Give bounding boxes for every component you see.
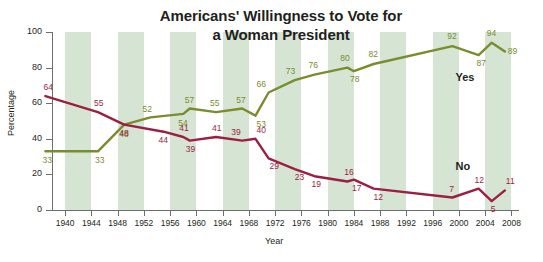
- data-label: 16: [344, 167, 353, 177]
- data-label: 40: [256, 125, 265, 135]
- data-label: 57: [185, 95, 194, 105]
- data-label: 66: [257, 79, 266, 89]
- data-label: 92: [447, 31, 456, 41]
- data-label: 33: [42, 155, 51, 165]
- chart-root: Americans' Willingness to Vote for a Wom…: [0, 0, 543, 262]
- data-label: 55: [210, 98, 219, 108]
- data-label: 52: [142, 104, 151, 114]
- data-label: 39: [231, 127, 240, 137]
- data-label: 48: [119, 128, 128, 138]
- data-label: 41: [212, 123, 221, 133]
- chart-title: Americans' Willingness to Vote for a Wom…: [150, 6, 412, 44]
- data-label: 78: [350, 74, 359, 84]
- data-label: 12: [475, 175, 484, 185]
- chart-title-line-2: a Woman President: [150, 25, 412, 44]
- data-label: 41: [179, 123, 188, 133]
- data-label: 55: [94, 98, 103, 108]
- data-label: 57: [236, 95, 245, 105]
- data-label: 80: [340, 53, 349, 63]
- data-label: 39: [186, 144, 195, 154]
- series-label-yes: Yes: [455, 71, 474, 83]
- data-label: 87: [477, 58, 486, 68]
- data-label: 64: [43, 82, 52, 92]
- data-label: 73: [286, 66, 295, 76]
- data-label: 29: [270, 161, 279, 171]
- data-label: 33: [95, 155, 104, 165]
- data-label: 44: [159, 135, 168, 145]
- data-label: 23: [295, 172, 304, 182]
- data-label: 17: [352, 183, 361, 193]
- data-label: 11: [506, 176, 515, 186]
- data-label: 7: [449, 184, 454, 194]
- series-line-yes: [45, 43, 505, 152]
- data-label: 19: [312, 179, 321, 189]
- series-label-no: No: [455, 160, 470, 172]
- data-label: 82: [369, 49, 378, 59]
- data-label: 89: [508, 46, 517, 56]
- chart-title-line-1: Americans' Willingness to Vote for: [150, 6, 412, 25]
- data-label: 76: [309, 60, 318, 70]
- data-label: 94: [487, 28, 496, 38]
- data-label: 5: [491, 204, 496, 214]
- series-line-no: [45, 96, 505, 201]
- data-label: 12: [374, 192, 383, 202]
